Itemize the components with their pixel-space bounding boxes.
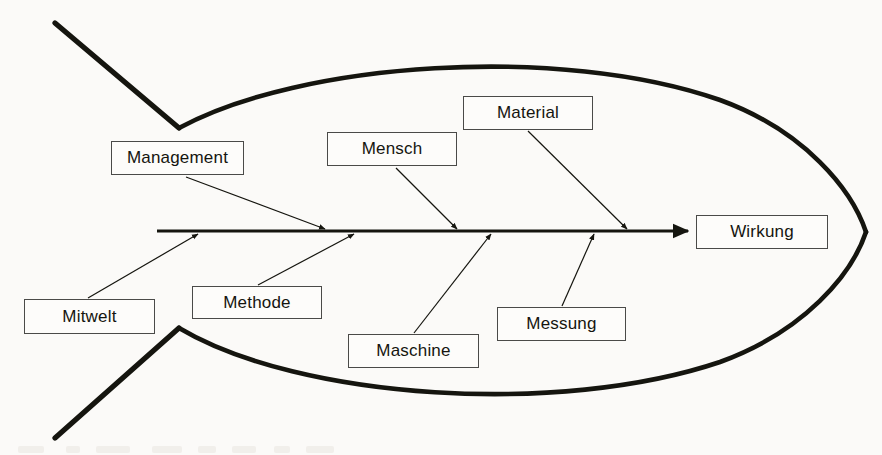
effect-box-wirkung[interactable]: Wirkung	[696, 215, 828, 249]
bone-material	[528, 131, 627, 229]
cause-label-mensch: Mensch	[362, 140, 423, 158]
cause-label-maschine: Maschine	[376, 342, 450, 360]
cause-box-mensch[interactable]: Mensch	[327, 132, 457, 166]
cause-label-messung: Messung	[526, 315, 596, 333]
effect-label-wirkung: Wirkung	[730, 223, 794, 241]
bone-messung	[562, 234, 594, 306]
fish-tail-lower	[55, 328, 179, 438]
cause-box-mitwelt[interactable]: Mitwelt	[24, 299, 155, 334]
fish-body-upper	[179, 67, 866, 232]
cause-box-messung[interactable]: Messung	[497, 307, 626, 341]
bone-mensch	[396, 168, 457, 229]
cause-box-material[interactable]: Material	[463, 96, 593, 130]
fish-tail-upper	[55, 23, 179, 128]
cause-box-methode[interactable]: Methode	[192, 286, 322, 319]
bone-methode	[258, 234, 354, 285]
cause-label-management: Management	[127, 149, 228, 167]
bone-mitwelt	[88, 234, 198, 298]
cause-box-maschine[interactable]: Maschine	[348, 334, 479, 368]
cause-box-management[interactable]: Management	[111, 141, 244, 175]
cause-label-mitwelt: Mitwelt	[62, 308, 116, 326]
fishbone-diagram-canvas: Management Mensch Material Mitwelt Metho…	[0, 0, 882, 455]
cause-label-material: Material	[497, 104, 559, 122]
bone-management	[186, 177, 325, 229]
cause-label-methode: Methode	[223, 294, 291, 312]
bone-maschine	[414, 234, 491, 333]
